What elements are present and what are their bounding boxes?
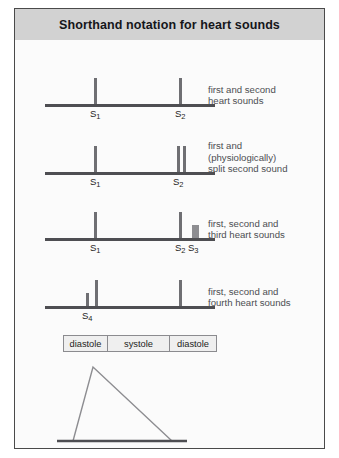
sound-label: S4 <box>82 310 93 321</box>
trace-caption: first and second heart sounds <box>208 84 276 107</box>
pressure-curve-line <box>73 367 172 441</box>
trace-caption: first and (physiologically) split second… <box>208 140 287 175</box>
sound-spike <box>86 293 89 306</box>
sound-spike <box>94 78 97 104</box>
figure-header: Shorthand notation for heart sounds <box>15 9 324 40</box>
sound-spike <box>179 280 182 306</box>
sound-label: S1 <box>90 108 101 119</box>
trace-baseline <box>45 238 215 241</box>
pressure-curve <box>15 349 326 449</box>
trace-caption: first, second and third heart sounds <box>208 218 285 241</box>
sound-spike <box>179 212 182 238</box>
sound-spike <box>192 225 199 238</box>
sound-label: S1 <box>90 242 101 253</box>
trace-caption: first, second and fourth heart sounds <box>208 286 291 309</box>
sound-spike <box>94 146 97 172</box>
page-title: Shorthand notation for heart sounds <box>59 18 280 32</box>
sound-label: S2 <box>173 176 184 187</box>
trace-baseline <box>45 306 215 309</box>
sound-spike <box>177 146 180 172</box>
sound-spike <box>183 146 186 172</box>
sound-spike <box>94 212 97 238</box>
sound-label: S2 <box>175 108 186 119</box>
trace-baseline <box>45 104 215 107</box>
sound-label: S3 <box>188 242 199 253</box>
sound-label: S1 <box>90 176 101 187</box>
trace-baseline <box>45 172 215 175</box>
sound-label: S2 <box>175 242 186 253</box>
sound-spike <box>179 78 182 104</box>
figure-panel: Shorthand notation for heart sounds S1S2… <box>14 8 325 449</box>
sound-spike <box>95 280 98 306</box>
